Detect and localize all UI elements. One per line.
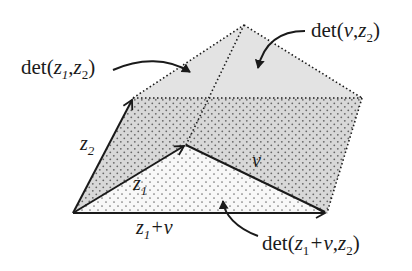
- label-det-z1-z2: det(z1,z2): [21, 55, 95, 82]
- label-z2: z2: [79, 132, 95, 158]
- label-v: v: [252, 149, 261, 171]
- determinant-diagram: z2 z1 v z1+v det(z1,z2) det(v,z2) det(z1…: [0, 0, 412, 271]
- label-z1-plus-v: z1+v: [135, 216, 173, 242]
- label-det-z1v-z2: det(z1+v,z2): [262, 231, 360, 258]
- label-det-v-z2: det(v,z2): [311, 18, 380, 45]
